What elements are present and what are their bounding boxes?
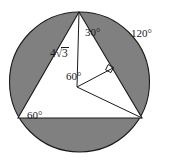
- center-angle-label: 60°: [66, 71, 81, 82]
- arc-angle-label: 120°: [131, 28, 152, 39]
- base-angle-label: 60°: [27, 110, 42, 121]
- side-length-label: 4√3: [50, 47, 69, 60]
- geometry-canvas: [0, 0, 171, 165]
- side-length-radicand: 3: [61, 47, 69, 60]
- apex-angle-label: 30°: [85, 27, 100, 38]
- geometry-figure: 30° 4√3 120° 60° 60°: [0, 0, 171, 165]
